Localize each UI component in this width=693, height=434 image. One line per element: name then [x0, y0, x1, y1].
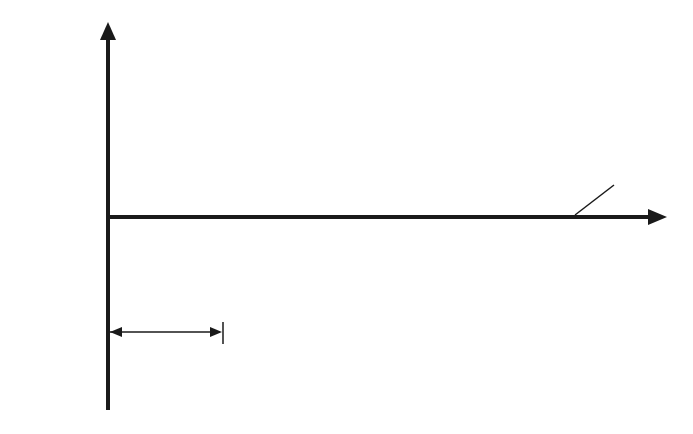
- alpha-arrow-left-icon: [110, 327, 122, 337]
- waveform-diagram: [0, 0, 693, 434]
- alpha-arrow-right-icon: [210, 327, 222, 337]
- y-axis-arrow-icon: [100, 22, 116, 40]
- alpha-dimension: [110, 322, 223, 344]
- vd-leader-line: [575, 185, 614, 215]
- t-axis-arrow-icon: [648, 209, 667, 225]
